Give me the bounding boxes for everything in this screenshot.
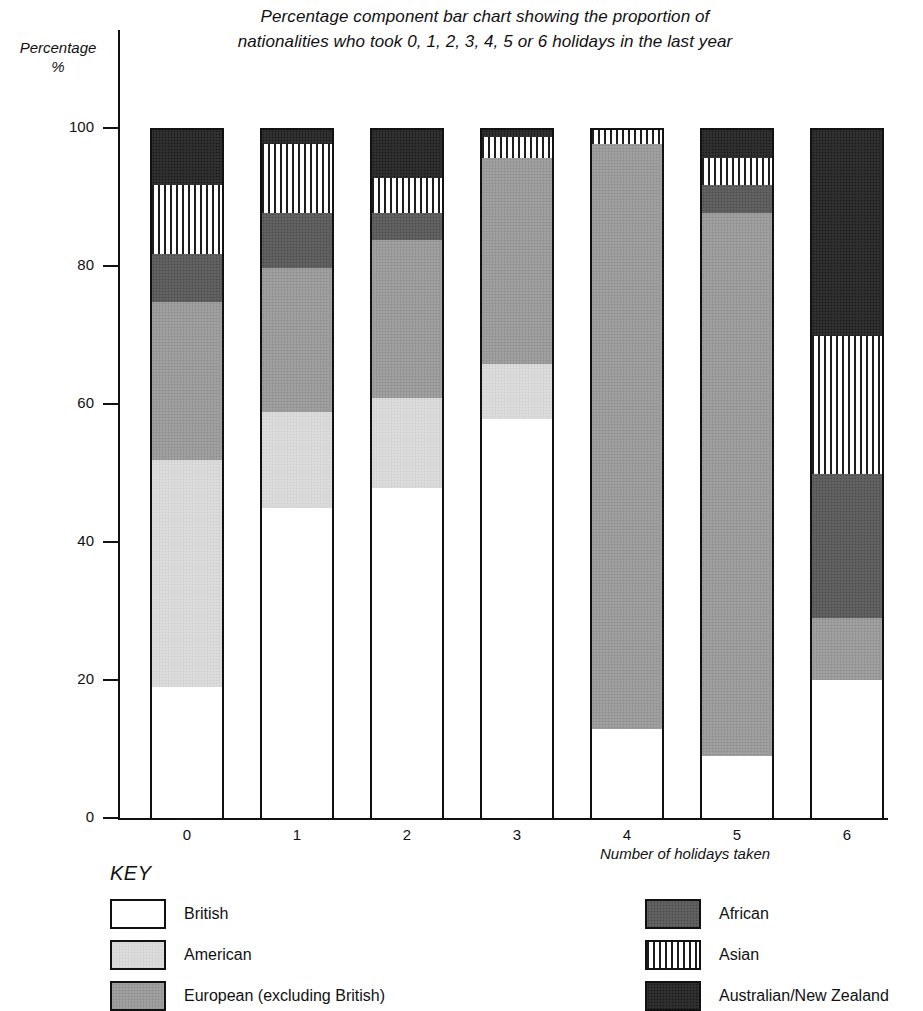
legend-swatch-european xyxy=(110,981,166,1011)
bar-segment xyxy=(152,687,222,818)
bar-segment xyxy=(812,618,882,680)
legend-swatch-ausnz xyxy=(645,981,701,1011)
x-axis-tick-label: 2 xyxy=(370,826,444,843)
bar-segment xyxy=(152,302,222,460)
y-axis-tick xyxy=(103,265,119,267)
bar-segment xyxy=(702,158,772,186)
bar-segment xyxy=(702,213,772,757)
bar-segment xyxy=(262,144,332,213)
y-axis-label-line-1: Percentage xyxy=(8,38,108,57)
bar-segment xyxy=(482,158,552,364)
bar-segment xyxy=(482,419,552,818)
y-axis-tick xyxy=(103,403,119,405)
bar-segment xyxy=(812,336,882,474)
x-axis-tick-label: 3 xyxy=(480,826,554,843)
bar-segment xyxy=(152,460,222,687)
y-axis-tick-label: 100 xyxy=(48,118,94,135)
chart-title-line-1: Percentage component bar chart showing t… xyxy=(175,4,795,29)
bar-segment xyxy=(372,488,442,818)
y-axis-tick-label: 40 xyxy=(48,532,94,549)
bar-segment xyxy=(592,144,662,729)
bar-segment xyxy=(262,213,332,268)
bar-segment xyxy=(812,680,882,818)
bar-segment xyxy=(262,508,332,818)
bar-segment xyxy=(372,398,442,487)
legend-item: American xyxy=(110,940,252,970)
legend-item: Australian/New Zealand xyxy=(645,981,889,1011)
key-title: KEY xyxy=(110,862,152,885)
bar-segment xyxy=(262,412,332,508)
y-axis-tick-label: 80 xyxy=(48,256,94,273)
chart-title: Percentage component bar chart showing t… xyxy=(175,4,795,54)
y-axis-tick-label: 20 xyxy=(48,670,94,687)
x-axis-tick-label: 5 xyxy=(700,826,774,843)
bar-segment xyxy=(152,254,222,302)
bar-segment xyxy=(152,185,222,254)
legend-item: European (excluding British) xyxy=(110,981,385,1011)
y-axis-tick xyxy=(103,127,119,129)
legend-swatch-african xyxy=(645,899,701,929)
legend-label: British xyxy=(184,905,228,923)
bar-segment xyxy=(372,240,442,398)
bar-segment xyxy=(812,130,882,336)
legend-item: Asian xyxy=(645,940,759,970)
y-axis-label-line-2: % xyxy=(8,57,108,76)
stacked-bar xyxy=(480,128,554,818)
x-axis-tick-label: 4 xyxy=(590,826,664,843)
bar-segment xyxy=(152,130,222,185)
bar-segment xyxy=(372,213,442,241)
bar-segment xyxy=(262,130,332,144)
legend-label: Asian xyxy=(719,946,759,964)
x-axis-tick-label: 1 xyxy=(260,826,334,843)
bar-segment xyxy=(372,178,442,212)
legend-swatch-asian xyxy=(645,940,701,970)
bar-segment xyxy=(262,268,332,412)
stacked-bar xyxy=(700,128,774,818)
stacked-bar xyxy=(370,128,444,818)
stacked-bar xyxy=(260,128,334,818)
bar-segment xyxy=(482,137,552,158)
y-axis-label: Percentage % xyxy=(8,38,108,76)
x-axis-tick-label: 6 xyxy=(810,826,884,843)
y-axis-tick-label: 0 xyxy=(48,808,94,825)
x-axis-label: Number of holidays taken xyxy=(600,845,770,862)
legend-label: Australian/New Zealand xyxy=(719,987,889,1005)
stacked-bar xyxy=(810,128,884,818)
legend-swatch-american xyxy=(110,940,166,970)
bar-segment xyxy=(372,130,442,178)
bar-segment xyxy=(592,729,662,818)
legend-label: European (excluding British) xyxy=(184,987,385,1005)
bar-segment xyxy=(812,474,882,618)
legend-label: African xyxy=(719,905,769,923)
chart-title-line-2: nationalities who took 0, 1, 2, 3, 4, 5 … xyxy=(175,29,795,54)
x-axis-line xyxy=(118,818,888,820)
legend-swatch-british xyxy=(110,899,166,929)
x-axis-tick-label: 0 xyxy=(150,826,224,843)
y-axis-tick xyxy=(103,817,119,819)
legend-item: British xyxy=(110,899,228,929)
y-axis-tick-label: 60 xyxy=(48,394,94,411)
legend-label: American xyxy=(184,946,252,964)
y-axis-tick xyxy=(103,679,119,681)
stacked-bar xyxy=(150,128,224,818)
bar-segment xyxy=(592,130,662,144)
bar-segment xyxy=(702,130,772,158)
legend-item: African xyxy=(645,899,769,929)
y-axis-tick xyxy=(103,541,119,543)
bar-segment xyxy=(482,364,552,419)
bar-segment xyxy=(482,130,552,137)
bar-segment xyxy=(702,185,772,213)
bar-segment xyxy=(702,756,772,818)
plot-area xyxy=(118,128,888,818)
stacked-bar xyxy=(590,128,664,818)
